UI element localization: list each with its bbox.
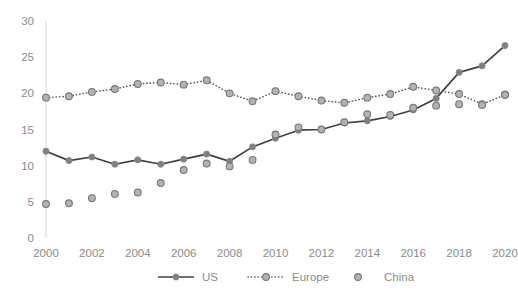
data-point-marker (111, 86, 118, 93)
data-point-marker (433, 102, 440, 109)
y-axis-tick-label: 30 (21, 15, 34, 27)
data-point-marker (295, 124, 302, 131)
x-axis-tick-label: 2014 (355, 247, 381, 259)
data-point-marker (43, 148, 49, 154)
data-point-marker (387, 112, 394, 119)
data-point-marker (456, 91, 463, 98)
data-point-marker (157, 79, 164, 86)
y-axis-tick-label: 25 (21, 51, 34, 63)
data-point-marker (134, 189, 141, 196)
data-point-marker (456, 101, 463, 108)
legend-label: Europe (292, 271, 329, 283)
legend-marker (263, 274, 270, 281)
data-point-marker (272, 88, 279, 95)
data-point-marker (66, 200, 73, 207)
x-axis-tick-label: 2012 (309, 247, 335, 259)
legend-item-china[interactable]: China (355, 271, 415, 283)
x-axis-tick-label: 2004 (125, 247, 151, 259)
data-point-marker (433, 95, 439, 101)
data-point-marker (318, 97, 325, 104)
x-axis-tick-label: 2010 (263, 247, 289, 259)
data-point-marker (134, 81, 141, 88)
data-point-marker (66, 158, 72, 164)
x-axis-tick-label: 2020 (492, 247, 518, 259)
data-point-marker (135, 157, 141, 163)
data-point-marker (111, 190, 118, 197)
data-point-marker (181, 156, 187, 162)
series-china (43, 91, 509, 207)
data-point-marker (203, 160, 210, 167)
data-point-marker (89, 195, 96, 202)
data-point-marker (295, 93, 302, 100)
line-chart: 0510152025302000200220042006200820102012… (0, 0, 518, 296)
x-axis-tick-label: 2000 (33, 247, 59, 259)
data-point-marker (89, 154, 95, 160)
data-point-marker (364, 94, 371, 101)
data-point-marker (180, 81, 187, 88)
data-point-marker (272, 131, 279, 138)
y-axis-tick-label: 5 (28, 196, 34, 208)
x-axis-tick-label: 2018 (446, 247, 472, 259)
data-point-marker (158, 161, 164, 167)
legend-label: China (384, 271, 415, 283)
data-point-marker (341, 99, 348, 106)
data-point-marker (226, 163, 233, 170)
data-point-marker (456, 69, 462, 75)
data-point-marker (66, 93, 73, 100)
data-point-marker (180, 167, 187, 174)
x-axis-tick-label: 2006 (171, 247, 197, 259)
data-point-marker (249, 156, 256, 163)
x-axis-tick-label: 2016 (400, 247, 426, 259)
data-point-marker (157, 180, 164, 187)
data-point-marker (502, 91, 509, 98)
y-axis-tick-label: 10 (21, 160, 34, 172)
x-axis-tick-label: 2008 (217, 247, 243, 259)
y-axis-tick-label: 15 (21, 124, 34, 136)
legend-marker (173, 274, 179, 280)
data-point-marker (89, 88, 96, 95)
data-point-marker (479, 63, 485, 69)
data-point-marker (249, 98, 256, 105)
data-point-marker (364, 118, 370, 124)
data-point-marker (226, 90, 233, 97)
data-point-marker (364, 111, 371, 118)
data-point-marker (318, 126, 325, 133)
data-point-marker (433, 87, 440, 94)
data-point-marker (410, 104, 417, 111)
data-point-marker (502, 42, 508, 48)
data-point-marker (387, 91, 394, 98)
data-point-marker (249, 144, 255, 150)
chart-canvas: 0510152025302000200220042006200820102012… (0, 0, 518, 296)
data-point-marker (112, 161, 118, 167)
legend-item-europe[interactable]: Europe (248, 271, 329, 283)
data-point-marker (43, 94, 50, 101)
legend-label: US (202, 271, 218, 283)
y-axis-tick-label: 20 (21, 87, 34, 99)
y-axis-tick-label: 0 (28, 232, 34, 244)
data-point-marker (479, 102, 486, 109)
data-point-marker (410, 83, 417, 90)
data-point-marker (341, 119, 348, 126)
x-axis-tick-label: 2002 (79, 247, 105, 259)
data-point-marker (204, 151, 210, 157)
data-point-marker (203, 77, 210, 84)
legend-marker (355, 274, 362, 281)
data-point-marker (43, 201, 50, 208)
legend-item-us[interactable]: US (158, 271, 218, 283)
